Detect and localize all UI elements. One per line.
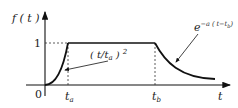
decay-curve [155, 43, 215, 79]
tb-label: tb [152, 90, 161, 104]
rise-annotation-arrow [65, 61, 108, 70]
y-axis-label: f ( t ) [11, 12, 40, 25]
rise-curve [45, 43, 68, 85]
level-one-label: 1 [34, 37, 41, 50]
origin-label: 0 [35, 88, 42, 101]
pulse-function-diagram: f ( t ) 1 0 ta tb t ( t/ta )2 e−a ( t−tb… [0, 0, 238, 108]
decay-annotation: e−a ( t−tb) [194, 20, 233, 34]
x-axis-label: t [218, 90, 223, 103]
rise-annotation: ( t/ta )2 [90, 48, 128, 62]
ta-label: ta [65, 90, 74, 104]
decay-annotation-arrow [176, 34, 198, 62]
